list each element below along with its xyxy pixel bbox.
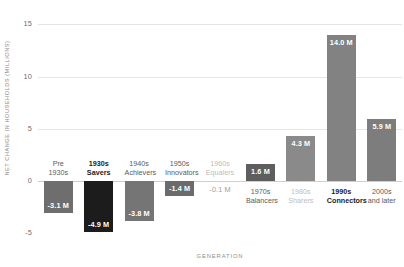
- plot-area: 151050-5 -3.1 MPre1930s-4.9 M1930sSavers…: [38, 6, 402, 224]
- bar-column[interactable]: 4.3 M1980sSharers: [286, 6, 315, 224]
- category-label: Pre1930s: [44, 159, 73, 178]
- y-axis-tick-label: 0: [2, 176, 32, 185]
- bar-column[interactable]: -1.4 M1950sInnovators: [165, 6, 194, 224]
- category-label: 1990sConnectors: [327, 187, 356, 206]
- bar-column[interactable]: 1.6 M1970sBalancers: [246, 6, 275, 224]
- bar-value-label: 5.9 M: [367, 122, 396, 131]
- bar-chart: NET CHANGE IN HOUSEHOLDS (MILLIONS) 1510…: [0, 0, 404, 267]
- category-label-line1: 1990s: [327, 187, 356, 196]
- category-label-line2: 1930s: [44, 168, 73, 177]
- y-axis-tick-label: 15: [2, 19, 32, 28]
- bar-column[interactable]: 14.0 M1990sConnectors: [327, 6, 356, 224]
- category-label-line2: Equalers: [206, 168, 235, 177]
- bar-value-label: -4.9 M: [84, 220, 113, 229]
- category-label: 1930sSavers: [84, 159, 113, 178]
- category-label-line2: Achievers: [125, 168, 154, 177]
- bar-column[interactable]: 5.9 M2000sand later: [367, 6, 396, 224]
- bar-column[interactable]: -3.1 MPre1930s: [44, 6, 73, 224]
- category-label-line2: Connectors: [327, 196, 356, 205]
- category-label-line2: Innovators: [165, 168, 194, 177]
- bar[interactable]: 4.3 M: [286, 136, 315, 181]
- bar-value-label: 14.0 M: [327, 38, 356, 47]
- bar-value-label: -3.1 M: [44, 201, 73, 210]
- bar[interactable]: -3.1 M: [44, 181, 73, 213]
- bar-column[interactable]: -0.1 M1960sEqualers: [206, 6, 235, 224]
- bar-value-label: -3.8 M: [125, 209, 154, 218]
- bar[interactable]: -1.4 M: [165, 181, 194, 196]
- category-label-line1: 1970s: [246, 187, 275, 196]
- bar-column[interactable]: -4.9 M1930sSavers: [84, 6, 113, 224]
- category-label-line1: 1960s: [206, 159, 235, 168]
- bar[interactable]: -4.9 M: [84, 181, 113, 232]
- category-label-line2: Balancers: [246, 196, 275, 205]
- y-axis-tick-label: 5: [2, 124, 32, 133]
- bar-series: -3.1 MPre1930s-4.9 M1930sSavers-3.8 M194…: [38, 6, 402, 224]
- category-label: 1980sSharers: [286, 187, 315, 206]
- x-axis-title: GENERATION: [38, 253, 402, 259]
- y-axis-title-text: NET CHANGE IN HOUSEHOLDS (MILLIONS): [4, 40, 10, 175]
- category-label-line1: Pre: [44, 159, 73, 168]
- bar[interactable]: 1.6 M: [246, 164, 275, 181]
- y-axis-tick-label: -5: [2, 228, 32, 237]
- category-label-line1: 1980s: [286, 187, 315, 196]
- category-label: 1970sBalancers: [246, 187, 275, 206]
- category-label-line1: 1940s: [125, 159, 154, 168]
- bar-value-label: -1.4 M: [165, 184, 194, 193]
- bar[interactable]: 14.0 M: [327, 35, 356, 181]
- category-label-line1: 1950s: [165, 159, 194, 168]
- bar-value-label: 4.3 M: [286, 139, 315, 148]
- category-label-line2: and later: [367, 196, 396, 205]
- bar-value-label: 1.6 M: [246, 167, 275, 176]
- category-label-line2: Savers: [84, 168, 113, 177]
- category-label: 2000sand later: [367, 187, 396, 206]
- category-label-line2: Sharers: [286, 196, 315, 205]
- category-label: 1950sInnovators: [165, 159, 194, 178]
- y-axis-tick-label: 10: [2, 72, 32, 81]
- bar-value-label: -0.1 M: [206, 185, 235, 194]
- category-label: 1960sEqualers: [206, 159, 235, 178]
- bar[interactable]: -3.8 M: [125, 181, 154, 221]
- category-label-line1: 2000s: [367, 187, 396, 196]
- category-label-line1: 1930s: [84, 159, 113, 168]
- bar-column[interactable]: -3.8 M1940sAchievers: [125, 6, 154, 224]
- bar[interactable]: 5.9 M: [367, 119, 396, 181]
- category-label: 1940sAchievers: [125, 159, 154, 178]
